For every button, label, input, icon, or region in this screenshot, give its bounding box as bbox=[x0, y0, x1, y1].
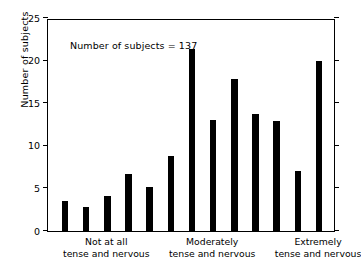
y-tick-mark bbox=[43, 102, 48, 103]
y-tick-label: 20 bbox=[28, 56, 40, 66]
bar bbox=[210, 120, 217, 231]
y-tick-label: 10 bbox=[28, 141, 40, 151]
bar bbox=[316, 61, 323, 231]
plot-area: 0510152025 Number of subjects = 137 bbox=[47, 19, 335, 232]
bar bbox=[83, 207, 90, 231]
x-group-label: Not at alltense and nervous bbox=[63, 236, 150, 259]
bar bbox=[189, 49, 196, 231]
y-tick-mark bbox=[43, 145, 48, 146]
bar bbox=[104, 196, 111, 231]
bar bbox=[125, 174, 132, 231]
y-tick-label: 25 bbox=[28, 13, 40, 23]
y-tick-mark-right bbox=[334, 102, 339, 103]
bar bbox=[252, 114, 259, 231]
y-tick-mark-right bbox=[334, 17, 339, 18]
x-group-label-line1: Extremely bbox=[275, 236, 361, 248]
y-tick-mark-right bbox=[334, 60, 339, 61]
x-group-label-line2: tense and nervous bbox=[63, 248, 150, 260]
bar bbox=[295, 171, 302, 231]
bar bbox=[62, 201, 69, 231]
y-tick-mark bbox=[43, 17, 48, 18]
bar bbox=[146, 187, 153, 231]
x-group-label-line2: tense and nervous bbox=[275, 248, 361, 260]
x-group-label: Moderatelytense and nervous bbox=[169, 236, 256, 259]
bar bbox=[168, 156, 175, 231]
y-tick-label: 5 bbox=[34, 184, 40, 194]
chart-annotation: Number of subjects = 137 bbox=[70, 40, 197, 51]
y-tick-mark bbox=[43, 60, 48, 61]
x-group-label: Extremelytense and nervous bbox=[275, 236, 361, 259]
x-group-label-line1: Not at all bbox=[63, 236, 150, 248]
y-tick-mark bbox=[43, 187, 48, 188]
y-tick-mark-right bbox=[334, 145, 339, 146]
y-tick-label: 15 bbox=[28, 98, 40, 108]
bar bbox=[231, 79, 238, 232]
x-group-label-line2: tense and nervous bbox=[169, 248, 256, 260]
x-group-label-line1: Moderately bbox=[169, 236, 256, 248]
bar bbox=[273, 121, 280, 231]
y-tick-mark-right bbox=[334, 230, 339, 231]
y-tick-mark-right bbox=[334, 187, 339, 188]
y-tick-label: 0 bbox=[34, 226, 40, 236]
y-tick-mark bbox=[43, 230, 48, 231]
